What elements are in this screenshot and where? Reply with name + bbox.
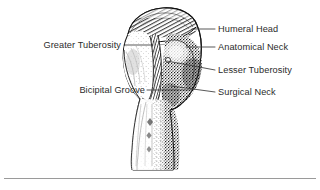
label-bicipital-groove: Bicipital Groove [79,85,145,96]
humeral-shaft-surface [126,96,186,176]
caption-divider-rule [4,178,316,179]
label-humeral-head: Humeral Head [218,24,278,35]
anatomy-figure: Humeral Head Anatomical Neck Lesser Tube… [0,0,320,190]
label-greater-tuberosity: Greater Tuberosity [43,40,121,51]
label-anatomical-neck: Anatomical Neck [218,42,288,53]
label-lesser-tuberosity: Lesser Tuberosity [218,65,292,76]
label-surgical-neck: Surgical Neck [218,87,276,98]
